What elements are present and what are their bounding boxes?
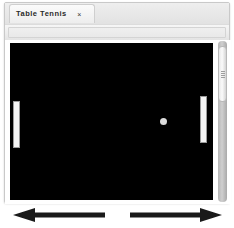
left-paddle[interactable] <box>13 101 20 148</box>
browser-window: Table Tennis × <box>4 2 230 203</box>
tab-title: Table Tennis <box>16 10 67 18</box>
pong-game-canvas[interactable] <box>10 43 213 200</box>
close-icon[interactable]: × <box>76 11 83 18</box>
address-input[interactable] <box>8 27 226 38</box>
grip-line-icon <box>221 77 225 78</box>
left-arrow-annotation <box>13 207 105 227</box>
right-arrow-annotation <box>130 207 222 227</box>
grip-line-icon <box>221 73 225 74</box>
game-ball <box>160 118 167 125</box>
vertical-scrollbar[interactable] <box>218 41 227 202</box>
annotation-arrow-row <box>0 203 234 228</box>
grip-line-icon <box>221 75 225 76</box>
grip-line-icon <box>221 71 225 72</box>
browser-toolbar <box>5 24 229 40</box>
tab-table-tennis[interactable]: Table Tennis × <box>9 4 95 23</box>
right-paddle[interactable] <box>200 96 207 143</box>
content-viewport <box>5 40 231 204</box>
tab-strip: Table Tennis × <box>5 3 229 24</box>
scrollbar-thumb[interactable] <box>218 46 227 102</box>
screen: Table Tennis × <box>0 0 234 228</box>
